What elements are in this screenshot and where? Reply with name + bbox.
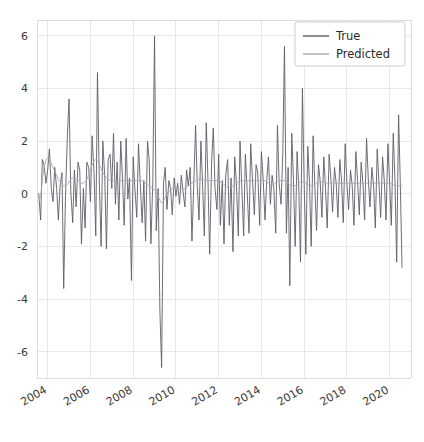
x-axis-tick-label: 2020 [360,383,391,408]
line-chart: 6420-2-4-6 20042006200820102012201420162… [0,0,424,442]
xtick-layer: 200420062008201020122014201620182020 [18,383,391,408]
x-axis-tick-label: 2014 [232,383,263,408]
x-axis-tick-label: 2018 [318,383,349,408]
x-axis-tick-label: 2004 [18,383,49,408]
y-axis-tick-label: -2 [17,240,28,253]
y-axis-tick-label: 4 [21,82,28,95]
series-line-true [39,36,402,368]
y-axis-tick-label: 2 [21,135,28,148]
x-axis-tick-label: 2008 [104,383,135,408]
x-axis-tick-label: 2016 [275,383,306,408]
series-layer [39,36,402,368]
x-axis-tick-label: 2006 [61,383,92,408]
y-axis-tick-label: -6 [17,346,28,359]
x-axis-tick-label: 2010 [147,383,178,408]
chart-legend: TruePredicted [295,22,405,66]
y-axis-tick-label: 6 [21,30,28,43]
legend-label-predicted: Predicted [336,47,390,61]
ytick-layer: 6420-2-4-6 [17,30,28,359]
legend-label-true: True [335,29,360,43]
x-axis-tick-label: 2012 [189,383,220,408]
chart-figure: 6420-2-4-6 20042006200820102012201420162… [0,0,424,442]
y-axis-tick-label: 0 [21,188,28,201]
y-axis-tick-label: -4 [17,293,28,306]
